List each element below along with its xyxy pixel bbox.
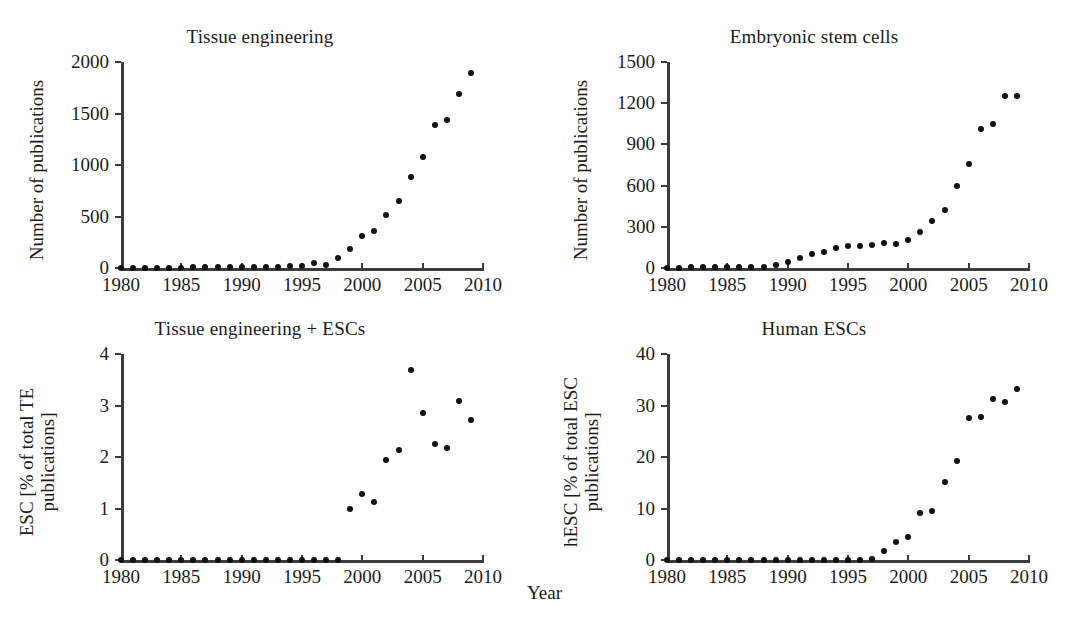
y-axis-line: [121, 354, 124, 561]
y-axis-tick-label: 1500: [71, 103, 109, 125]
x-axis-tick: [361, 263, 363, 269]
data-point: [773, 557, 779, 563]
panel-embryonic-stem-cells: Embryonic stem cells Number of publicati…: [544, 20, 1084, 310]
y-axis-label: hESC [% of total ESC publications]: [560, 342, 603, 582]
data-point: [966, 161, 972, 167]
data-point: [287, 263, 293, 269]
panel-human-escs: Human ESCs hESC [% of total ESC publicat…: [544, 312, 1084, 612]
data-point: [251, 557, 257, 563]
x-axis-tick-label: 2010: [1010, 566, 1048, 588]
y-axis-label-line: publications]: [37, 342, 58, 582]
y-axis-tick: [661, 61, 667, 63]
y-axis-tick: [661, 185, 667, 187]
panel-title: Human ESCs: [584, 318, 1044, 340]
y-axis-tick-label: 40: [636, 343, 655, 365]
data-point: [190, 264, 196, 270]
data-point: [1014, 93, 1020, 99]
data-point: [383, 457, 389, 463]
data-point: [905, 534, 911, 540]
data-point: [700, 264, 706, 270]
data-point: [154, 265, 160, 271]
y-axis-tick-label: 20: [636, 446, 655, 468]
data-point: [869, 556, 875, 562]
data-point: [990, 396, 996, 402]
data-point: [761, 557, 767, 563]
x-axis-tick-label: 1980: [648, 566, 686, 588]
data-point: [432, 441, 438, 447]
data-point: [893, 241, 899, 247]
data-point: [408, 367, 414, 373]
data-point: [966, 415, 972, 421]
x-axis-tick-label: 2000: [343, 566, 381, 588]
x-axis-tick-label: 1980: [102, 274, 140, 296]
y-axis-tick-label: 1200: [617, 92, 655, 114]
data-point: [263, 264, 269, 270]
y-axis-tick-label: 600: [627, 175, 656, 197]
data-point: [166, 557, 172, 563]
data-point: [942, 207, 948, 213]
data-point: [688, 264, 694, 270]
data-point: [335, 557, 341, 563]
data-point: [239, 557, 245, 563]
x-axis-tick: [1028, 555, 1030, 561]
data-point: [215, 557, 221, 563]
data-point: [712, 264, 718, 270]
data-point: [347, 506, 353, 512]
x-axis-tick: [482, 263, 484, 269]
y-axis-label: ESC [% of total TE publications]: [16, 342, 59, 582]
y-axis-tick: [661, 405, 667, 407]
x-axis-tick-label: 2010: [464, 274, 502, 296]
data-point: [263, 557, 269, 563]
data-point: [239, 264, 245, 270]
x-axis-tick: [907, 263, 909, 269]
x-axis-tick-label: 1985: [708, 274, 746, 296]
x-axis-tick: [422, 555, 424, 561]
data-point: [311, 557, 317, 563]
data-point: [178, 265, 184, 271]
data-point: [444, 117, 450, 123]
data-point: [299, 263, 305, 269]
y-axis-tick-label: 2000: [71, 51, 109, 73]
y-axis-tick: [115, 405, 121, 407]
shared-x-axis-label: Year: [527, 582, 562, 604]
data-point: [299, 557, 305, 563]
x-axis-tick-label: 1985: [162, 566, 200, 588]
data-point: [335, 255, 341, 261]
data-point: [1002, 399, 1008, 405]
data-point: [748, 557, 754, 563]
data-point: [881, 548, 887, 554]
panel-title: Embryonic stem cells: [584, 26, 1044, 48]
y-axis-label: Number of publications: [26, 55, 47, 285]
data-point: [130, 557, 136, 563]
data-point: [736, 264, 742, 270]
y-axis-tick: [115, 456, 121, 458]
data-point: [857, 557, 863, 563]
plot-area: 0102030401980198519901995200020052010: [667, 354, 1029, 560]
data-point: [420, 154, 426, 160]
data-point: [142, 265, 148, 271]
data-point: [773, 262, 779, 268]
data-point: [456, 91, 462, 97]
x-axis-tick-label: 1990: [223, 274, 261, 296]
x-axis-tick-label: 1995: [283, 566, 321, 588]
y-axis-tick-label: 300: [627, 216, 656, 238]
data-point: [396, 447, 402, 453]
data-point: [809, 557, 815, 563]
y-axis-tick-label: 3: [100, 395, 110, 417]
data-point: [724, 557, 730, 563]
x-axis-tick-label: 2005: [950, 566, 988, 588]
x-axis-tick-label: 1990: [769, 274, 807, 296]
data-point: [978, 126, 984, 132]
data-point: [227, 264, 233, 270]
data-point: [202, 557, 208, 563]
y-axis-line: [667, 354, 670, 561]
data-point: [748, 264, 754, 270]
data-point: [990, 121, 996, 127]
data-point: [275, 264, 281, 270]
data-point: [118, 265, 124, 271]
y-axis-tick-label: 30: [636, 395, 655, 417]
data-point: [178, 557, 184, 563]
y-axis-tick: [661, 102, 667, 104]
data-point: [323, 262, 329, 268]
data-point: [881, 240, 887, 246]
